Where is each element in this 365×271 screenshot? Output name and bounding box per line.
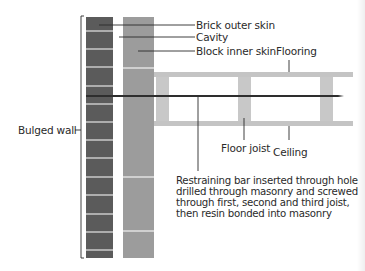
label-bulged-wall: Bulged wall: [18, 124, 77, 136]
ceiling-board: [154, 121, 353, 126]
bulged-wall-bracket: [75, 16, 84, 258]
floor-joist-1: [156, 77, 169, 121]
brick-outer-skin: [86, 17, 113, 258]
restraining-bar-note-line-1: Restraining bar inserted through hole: [176, 175, 358, 187]
flooring-board: [154, 72, 353, 77]
label-block-inner-skin: Block inner skin: [196, 45, 276, 57]
label-floor-joist: Floor joist: [221, 142, 270, 154]
label-ceiling: Ceiling: [273, 146, 307, 158]
restraining-bar-note-line-2: drilled through masonry and screwed: [176, 186, 358, 198]
floor-joist-2: [238, 77, 251, 121]
label-brick-outer-skin: Brick outer skin: [196, 19, 275, 31]
block-inner-skin: [123, 17, 154, 258]
restraining-bar: [86, 95, 344, 97]
floor-joist-3: [320, 77, 333, 121]
label-cavity: Cavity: [196, 31, 228, 43]
label-flooring: Flooring: [276, 45, 317, 57]
restraining-bar-note-line-4: then resin bonded into masonry: [176, 208, 332, 220]
floor-structure: [154, 72, 353, 126]
restraining-bar-note-line-3: through first, second and third joist,: [176, 197, 350, 209]
